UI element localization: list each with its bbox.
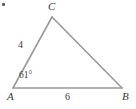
- triangle-side-CB: [52, 17, 122, 88]
- side-label-AB: 6: [65, 92, 70, 102]
- geometry-figure: C A B 4 6 61°: [0, 0, 136, 109]
- vertex-label-A: A: [7, 91, 14, 102]
- vertex-label-B: B: [122, 91, 129, 102]
- angle-label-A: 61°: [19, 71, 32, 81]
- side-label-AC: 4: [18, 40, 23, 50]
- vertex-label-C: C: [48, 1, 55, 12]
